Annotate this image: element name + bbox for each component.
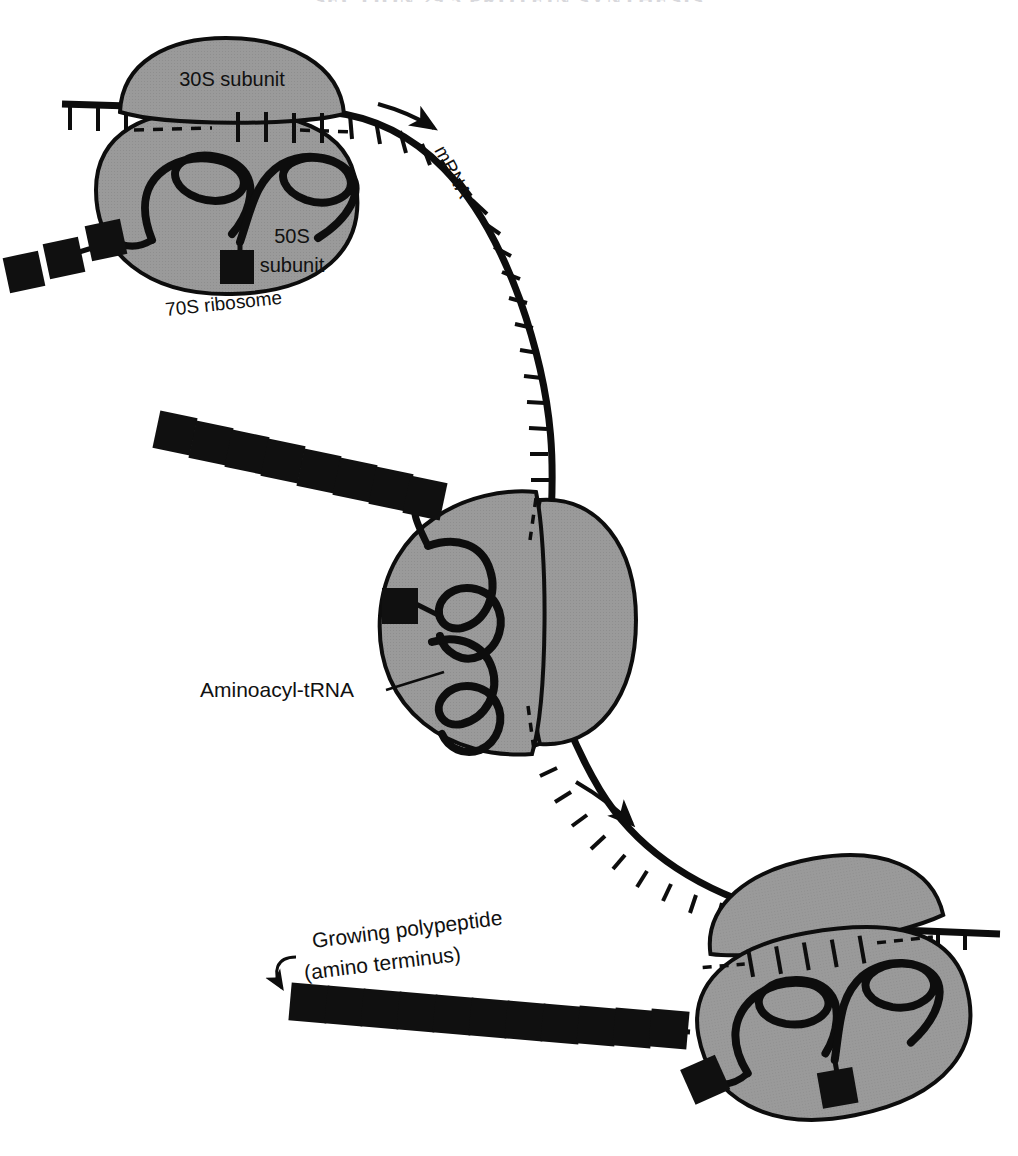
label-growing-polypeptide-group: Growing polypeptide (amino terminus) <box>277 906 504 988</box>
label-aminoacyl-trna: Aminoacyl-tRNA <box>200 678 354 701</box>
label-50s-subunit-line2: subunit <box>260 254 325 276</box>
polypeptide-top <box>3 219 128 294</box>
label-mrna: mRNA <box>430 142 475 202</box>
subunit-30s-middle <box>531 500 636 744</box>
polypeptide-bottom <box>288 982 690 1049</box>
label-30s-subunit: 30S subunit <box>179 68 285 90</box>
ribosome-top: 30S subunit 50S subunit 70S ribosome <box>3 38 358 320</box>
label-growing-polypeptide-line1: Growing polypeptide <box>311 906 504 952</box>
label-50s-subunit-line1: 50S <box>274 225 310 247</box>
figure-canvas: SECTION 29.5 PROTEIN SYNTHESIS <box>0 0 1018 1156</box>
polypeptide-middle <box>152 410 447 520</box>
ribosome-middle: Aminoacyl-tRNA <box>152 410 636 754</box>
polysome-translation-diagram: 30S subunit 50S subunit 70S ribosome mRN… <box>0 0 1018 1156</box>
